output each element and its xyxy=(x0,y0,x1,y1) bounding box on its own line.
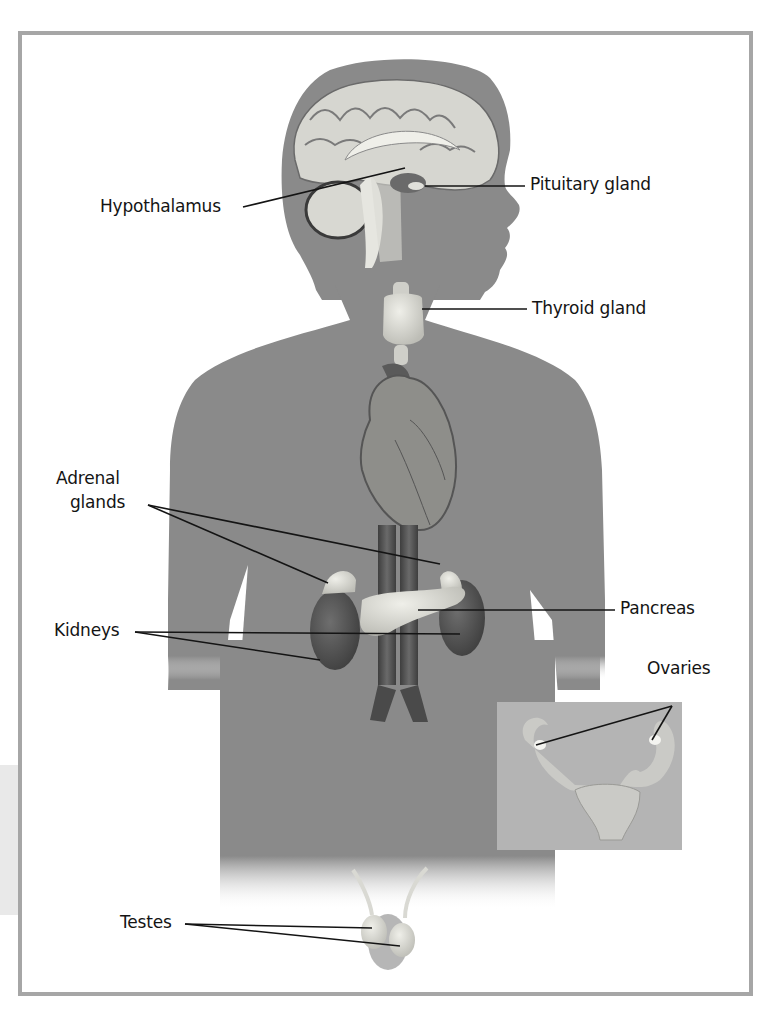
pancreas-label: Pancreas xyxy=(620,598,695,618)
adrenal-glands-label-line1: Adrenal xyxy=(56,468,120,488)
kidneys-label: Kidneys xyxy=(54,620,119,640)
ovaries-inset xyxy=(497,702,682,850)
adrenal-glands-label-line2: glands xyxy=(70,492,125,512)
hypothalamus-label: Hypothalamus xyxy=(100,196,221,216)
testes-label: Testes xyxy=(120,912,172,932)
thyroid-gland-label: Thyroid gland xyxy=(532,298,646,318)
ovaries-label: Ovaries xyxy=(647,658,711,678)
pituitary-gland-label: Pituitary gland xyxy=(530,174,651,194)
